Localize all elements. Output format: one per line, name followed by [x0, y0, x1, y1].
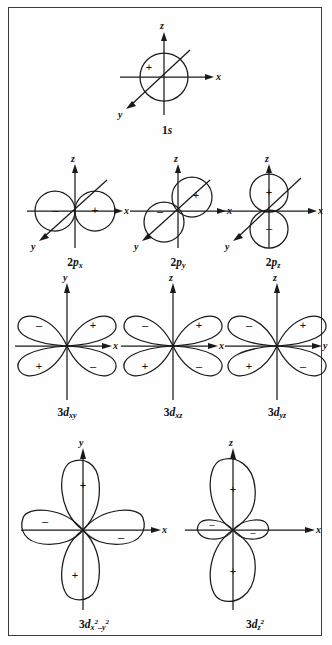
lobe-sign-lower-right: –: [300, 360, 307, 372]
caption-2pz: 2pz: [219, 256, 327, 270]
lobe-sign-lower-left: +: [246, 360, 252, 372]
orbital-3dyz-diagram: – + + – z y: [223, 274, 331, 402]
orbital-1s-diagram: + z x y: [112, 20, 222, 120]
horizontal-axis-arrowhead: [208, 343, 218, 349]
figure-frame: + z x y 1s – + z x y 2px: [8, 7, 322, 636]
vertical-axis-label: z: [168, 272, 173, 283]
vertical-axis-label: y: [62, 272, 68, 283]
lobe-sign-top: +: [80, 479, 86, 491]
d-lobe-lower-left: [124, 346, 173, 376]
y-axis-label: y: [30, 241, 36, 252]
d-lobe-upper-left: [18, 316, 67, 346]
y-axis-label: y: [224, 241, 230, 252]
lobe-sign-positive: +: [193, 189, 199, 201]
vertical-axis-label: z: [228, 437, 233, 448]
lobe-sign-torus-left: –: [209, 520, 214, 530]
orbital-3dx2y2-diagram: + – – + y x: [21, 438, 167, 614]
lobe-sign-upper-left: –: [142, 319, 149, 331]
d-lobe-right: [83, 510, 144, 544]
lobe-sign-bottom: +: [72, 569, 78, 581]
caption-1s: 1s: [112, 124, 222, 136]
z-axis-arrowhead: [72, 164, 78, 173]
orbital-3dxy: – + + – y x 3dxy: [13, 274, 121, 414]
lobe-sign-lower-right: –: [90, 360, 97, 372]
orbital-3dz2-diagram: + + – – z x: [185, 438, 325, 614]
lobe-sign-upper-right: +: [300, 319, 306, 331]
caption-3dx2y2: 3dx2–y2: [21, 618, 167, 632]
lobe-sign-lower-right: –: [196, 360, 203, 372]
y-axis-label: y: [117, 109, 123, 120]
lobe-sign-negative: –: [52, 204, 59, 216]
lobe-sign-lower-left: +: [36, 360, 42, 372]
caption-3dz2: 3dz2: [185, 618, 325, 632]
lobe-sign-left: –: [42, 515, 49, 527]
lobe-sign-negative: –: [157, 205, 164, 217]
z-axis-label: z: [159, 20, 164, 31]
horizontal-axis-label: x: [112, 340, 118, 351]
orbital-2pz-diagram: + – z x y: [219, 156, 327, 252]
caption-3dxz: 3dxz: [119, 406, 227, 420]
lobe-sign-bottom: +: [230, 565, 236, 577]
orbital-3dyz: – + + – z y 3dyz: [223, 274, 331, 414]
orbital-2pz: + – z x y 2pz: [219, 156, 327, 266]
orbital-3dz2: + + – – z x 3dz2: [185, 438, 325, 628]
vertical-axis-arrowhead: [80, 448, 86, 459]
caption-2py: 2py: [124, 256, 232, 270]
lobe-sign-upper-left: –: [36, 319, 43, 331]
x-axis-label: x: [215, 71, 221, 82]
orbital-2py: + – z x y 2py: [124, 156, 232, 266]
orbital-1s: + z x y 1s: [112, 20, 222, 130]
vertical-axis-arrowhead: [170, 283, 176, 293]
d-lobe-lower-left: [18, 346, 67, 376]
lobe-sign-lower-left: +: [142, 360, 148, 372]
d-lobe-bottom: [62, 530, 100, 600]
d-lobe-lower-left: [228, 346, 277, 376]
orbital-2py-diagram: + – z x y: [124, 156, 232, 252]
vertical-axis-arrowhead: [64, 283, 70, 293]
vertical-axis-arrowhead: [274, 283, 280, 293]
orbital-3dxy-diagram: – + + – y x: [13, 274, 121, 402]
orbital-3dxz-diagram: – + + – z x: [119, 274, 227, 402]
orbital-3dxz: – + + – z x 3dxz: [119, 274, 227, 414]
x-axis-label: x: [317, 205, 323, 216]
z-axis-arrowhead: [266, 164, 272, 173]
lobe-sign-upper-right: +: [196, 319, 202, 331]
x-axis-arrowhead: [308, 208, 317, 214]
horizontal-axis-label: y: [322, 340, 328, 351]
lobe-sign-right: –: [118, 531, 125, 543]
orbital-3dx2y2: + – – + y x 3dx2–y2: [21, 438, 167, 628]
orbital-2px: – + z x y 2px: [21, 156, 129, 266]
z-axis-arrowhead: [161, 32, 167, 41]
caption-3dyz: 3dyz: [223, 406, 331, 420]
caption-2px: 2px: [21, 256, 129, 270]
horizontal-axis-label: x: [161, 524, 167, 535]
z-axis-arrowhead: [175, 164, 181, 173]
vertical-axis-label: z: [272, 272, 277, 283]
orbital-2px-diagram: – + z x y: [21, 156, 129, 252]
vertical-axis-arrowhead: [230, 448, 236, 459]
horizontal-axis-label: x: [315, 524, 321, 535]
horizontal-axis-arrowhead: [312, 343, 322, 349]
caption-3dxy: 3dxy: [13, 406, 121, 420]
lobe-sign-upper-right: +: [90, 319, 96, 331]
z-axis-label: z: [264, 153, 269, 164]
lobe-sign-positive: +: [92, 204, 98, 216]
d-lobe-upper-left: [124, 316, 173, 346]
lobe-sign-positive: +: [146, 61, 152, 73]
horizontal-axis-arrowhead: [151, 527, 161, 533]
x-axis-arrowhead: [205, 74, 214, 80]
horizontal-axis-arrowhead: [305, 527, 315, 533]
vertical-axis-label: y: [78, 437, 84, 448]
lobe-sign-upper-left: –: [246, 319, 253, 331]
d-lobe-upper-left: [228, 316, 277, 346]
z-axis-label: z: [173, 153, 178, 164]
lobe-sign-top: +: [230, 483, 236, 495]
y-axis-label: y: [133, 241, 139, 252]
lobe-sign-negative: –: [266, 222, 273, 234]
lobe-sign-torus-right: –: [250, 528, 255, 538]
horizontal-axis-arrowhead: [102, 343, 112, 349]
lobe-sign-positive: +: [266, 186, 272, 198]
z-axis-label: z: [70, 153, 75, 164]
